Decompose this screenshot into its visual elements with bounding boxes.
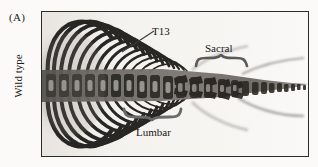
row-label-wild-type: Wild type: [12, 41, 24, 111]
radiograph-image: [42, 12, 308, 156]
radiograph-panel: T13 Sacral Lumbar: [41, 11, 309, 157]
panel-letter: (A): [9, 11, 25, 23]
figure-panel-a: (A) Wild type: [0, 0, 318, 167]
